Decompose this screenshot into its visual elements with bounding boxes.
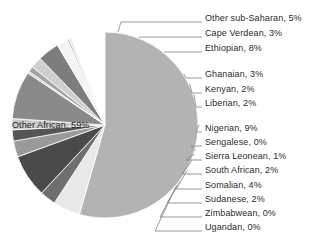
callout-label-somalian: Somalian, 4% [205,180,262,190]
leader-line-3 [184,74,202,78]
callout-label-sierra-leonean: Sierra Leonean, 1% [205,151,286,161]
callout-label-cape-verdean: Cape Verdean, 3% [205,28,282,38]
pie-chart-figure: Other African, 59% Other sub-Saharan, 5%… [0,0,327,241]
callout-label-sengalese: Sengalese, 0% [205,137,267,147]
leader-line-0 [118,22,202,32]
callout-label-sudanese: Sudanese, 2% [205,194,265,204]
leader-line-4 [190,84,203,93]
callout-label-south-african: South African, 2% [205,165,278,175]
callout-label-ethiopian: Ethiopian, 8% [205,43,262,53]
callout-label-ugandan: Ugandan, 0% [205,222,261,232]
callout-label-liberian: Liberian, 2% [205,98,256,108]
callout-label-zimbabwean: Zimbabwean, 0% [205,208,276,218]
callout-label-nigerian: Nigerian, 9% [205,123,258,133]
callout-label-ghanaian: Ghanaian, 3% [205,69,263,79]
callout-label-other-sub-saharan: Other sub-Saharan, 5% [205,13,302,23]
callout-label-kenyan: Kenyan, 2% [205,84,255,94]
slice-inner-label-other-african: Other African, 59% [12,120,89,130]
